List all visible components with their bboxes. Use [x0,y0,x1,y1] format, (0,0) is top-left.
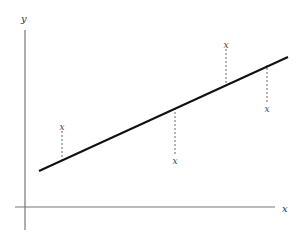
data-point-marker: x [264,104,269,114]
regression-line [39,57,288,171]
y-axis-label: y [20,13,27,24]
data-point-marker: x [172,156,177,166]
x-axis-label: x [282,203,288,214]
data-point-marker: x [223,40,228,50]
residual-lines [62,49,267,160]
data-point-marker: x [59,122,64,132]
regression-diagram: y x xxxx [0,0,305,240]
